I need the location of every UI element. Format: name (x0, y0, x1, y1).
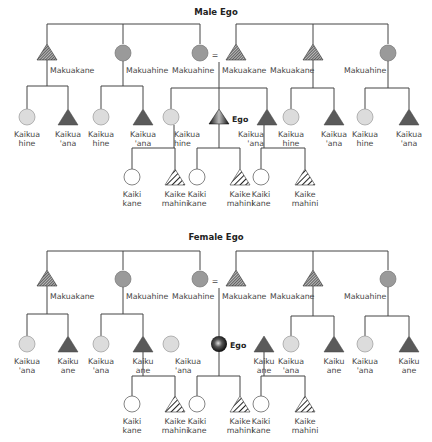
kin-label: Kaikua (130, 130, 156, 139)
circle-white-icon (124, 169, 140, 185)
kin-label: Makuahine (344, 66, 387, 75)
kin-label: Kaiki (188, 190, 207, 199)
paternal-sibling-line (47, 251, 200, 270)
kin-label: Kaikua (55, 130, 81, 139)
circle-gray-icon (380, 271, 396, 287)
kin-label: 'ana (60, 139, 77, 148)
triangle-hatched-icon (303, 44, 323, 60)
kin-label: Makuahine (344, 292, 387, 301)
circle-gray-icon (192, 45, 208, 61)
kin-label: Kaiku (398, 357, 419, 366)
kin-label: Kaike (165, 190, 186, 199)
kin-label: Kaikua (175, 357, 201, 366)
kin-label: Kaike (230, 417, 251, 426)
circle-light-icon (357, 109, 373, 125)
kin-label: 'ana (283, 366, 300, 375)
kin-label: Kaikua (396, 130, 422, 139)
kin-label: Kaikua (352, 357, 378, 366)
ego-sphere-icon (211, 336, 227, 352)
triangle-dark-icon (58, 336, 78, 352)
kin-label: ane (61, 366, 76, 375)
kin-label: Kaike (295, 190, 316, 199)
kin-label: 'ana (247, 139, 264, 148)
descent-line (197, 124, 240, 169)
kin-label: Makuahine (172, 292, 215, 301)
circle-gray-icon (380, 45, 396, 61)
female-ego-diagram: Female Ego = Makuakane Makuahine Makuahi… (14, 232, 420, 435)
kin-label: hine (19, 139, 36, 148)
triangle-hatched-icon (226, 44, 246, 60)
children-labels: Kaiki kane Kaike mahini Kaiki kane Kaike… (123, 190, 319, 208)
circle-light-icon (93, 109, 109, 125)
kin-label: 'ana (175, 366, 192, 375)
ego-gen-labels: Kaikua 'ana Kaiku ane Kaikua 'ana Kaiku … (14, 357, 420, 375)
circle-gray-icon (115, 45, 131, 61)
triangle-dark-icon (324, 336, 344, 352)
triangle-striped-icon (295, 396, 315, 412)
triangle-dark-icon (58, 109, 78, 125)
circle-light-icon (283, 109, 299, 125)
kinship-diagrams: Male Ego = Makuakane Makuahine Makuahine… (0, 0, 432, 442)
kin-label: Kaiki (188, 417, 207, 426)
descent-line (197, 352, 240, 396)
circle-light-icon (19, 336, 35, 352)
kin-label: Kaikua (14, 130, 40, 139)
kin-label: mahini (292, 426, 319, 435)
kin-label: kane (252, 426, 271, 435)
circle-gray-icon (115, 271, 131, 287)
triangle-dark-icon (399, 336, 419, 352)
kin-label: ane (402, 366, 417, 375)
kin-label: Kaikua (88, 130, 114, 139)
kin-label: Kaiki (123, 190, 142, 199)
kin-label: 'ana (135, 139, 152, 148)
maternal-sibling-line (236, 251, 388, 270)
kin-label: 'ana (401, 139, 418, 148)
circle-white-icon (189, 169, 205, 185)
kin-label: kane (123, 426, 142, 435)
triangle-hatched-icon (37, 270, 57, 286)
kin-label: Kaikua (14, 357, 40, 366)
triangle-dark-icon (399, 109, 419, 125)
kin-label: Makuahine (126, 66, 169, 75)
kin-label: 'ana (357, 366, 374, 375)
circle-white-icon (253, 396, 269, 412)
kin-label: kane (188, 199, 207, 208)
kin-label: Makuakane (50, 66, 95, 75)
kin-label: kane (123, 199, 142, 208)
circle-gray-icon (192, 271, 208, 287)
ego-triangle-icon (209, 109, 229, 124)
ego-gen-labels: Kaikua hine Kaikua 'ana Kaikua hine Kaik… (14, 130, 422, 148)
triangle-striped-icon (295, 169, 315, 185)
circle-light-icon (357, 336, 373, 352)
circle-white-icon (189, 396, 205, 412)
kin-label: Makuakane (50, 292, 95, 301)
kin-label: Kaike (165, 417, 186, 426)
marriage-symbol: = (212, 277, 219, 286)
kin-label: hine (283, 139, 300, 148)
circle-light-icon (93, 336, 109, 352)
circle-white-icon (253, 169, 269, 185)
marriage-symbol: = (212, 51, 219, 60)
paternal-sibling-line (47, 24, 200, 44)
triangle-hatched-icon (303, 270, 323, 286)
diagram-title: Male Ego (194, 7, 238, 17)
kin-label: Kaike (230, 190, 251, 199)
kin-label: Kaikua (278, 130, 304, 139)
kin-label: hine (357, 139, 374, 148)
maternal-sibling-line (236, 24, 388, 44)
kin-label: mahini (162, 426, 189, 435)
kin-label: mahini (162, 199, 189, 208)
kin-label: Kaikua (238, 130, 264, 139)
kin-label: mahini (292, 199, 319, 208)
triangle-striped-icon (165, 169, 185, 185)
kin-label: hine (174, 139, 191, 148)
kin-label: Kaiki (252, 190, 271, 199)
kin-label: Makuakane (222, 66, 267, 75)
kin-label: 'ana (93, 366, 110, 375)
kin-label: Kaikua (352, 130, 378, 139)
kin-label: Kaikua (278, 357, 304, 366)
kin-label: kane (252, 199, 271, 208)
kin-label: kane (188, 426, 207, 435)
kin-label: Makuahine (126, 292, 169, 301)
circle-light-icon (163, 336, 179, 352)
